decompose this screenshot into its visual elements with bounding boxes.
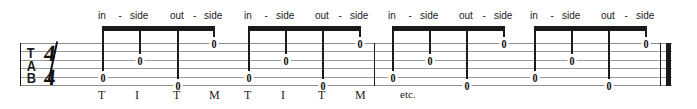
tab-clef-letter-b: B	[27, 70, 36, 85]
tablature-sheet: TAB 44 0000in-sideout-sideTITM0000in-sid…	[0, 0, 697, 109]
staff-line-string-1	[20, 43, 672, 44]
etc-label: etc.	[400, 88, 416, 100]
lyric-syllable-m4-3: side	[562, 10, 580, 21]
lyric-syllable-m3-6: side	[494, 10, 512, 21]
lyric-syllable-m3-1: in	[388, 10, 396, 21]
fingering-m2-n2: I	[281, 89, 285, 101]
lyric-hyphen-m3-5: -	[483, 10, 486, 21]
lyric-syllable-m1-3: side	[130, 10, 148, 21]
fret-number-m2-string1[interactable]: 0	[355, 37, 364, 50]
lyric-hyphen-m1-5: -	[193, 10, 196, 21]
lyric-syllable-m4-1: in	[530, 10, 538, 21]
note-stem-m2-n3	[322, 30, 324, 85]
note-stem-m4-n3	[608, 30, 610, 85]
fingering-m2-n1: T	[244, 89, 251, 101]
lyric-hyphen-m4-5: -	[625, 10, 628, 21]
fret-number-m4-string6[interactable]: 0	[604, 79, 613, 92]
fret-number-m1-string1[interactable]: 0	[209, 37, 218, 50]
fret-number-m3-string3[interactable]: 0	[425, 54, 434, 67]
lyric-syllable-m2-6: side	[350, 10, 368, 21]
fret-number-m3-string1[interactable]: 0	[499, 37, 508, 50]
fret-number-m4-string5[interactable]: 0	[530, 71, 539, 84]
fingering-m2-n4: M	[355, 89, 366, 101]
lyric-syllable-m3-3: side	[420, 10, 438, 21]
lyric-hyphen-m2-2: -	[265, 10, 268, 21]
note-stem-m1-n3	[177, 30, 179, 85]
beam-measure-3	[392, 26, 505, 31]
barline-final-thick	[666, 43, 671, 86]
staff-line-string-4	[20, 68, 672, 69]
beam-measure-4	[534, 26, 647, 31]
barline-mid-barline	[374, 43, 375, 86]
fret-number-m2-string5[interactable]: 0	[244, 71, 253, 84]
barline-staff-start	[20, 43, 21, 86]
fingering-m1-n2: I	[135, 89, 139, 101]
beam-measure-1	[102, 26, 215, 31]
lyric-syllable-m4-6: side	[636, 10, 654, 21]
lyric-syllable-m1-6: side	[204, 10, 222, 21]
lyric-hyphen-m3-2: -	[409, 10, 412, 21]
staff-line-string-6	[20, 85, 672, 86]
note-stem-m3-n3	[466, 30, 468, 85]
barline-final-thin	[660, 43, 661, 86]
lyric-syllable-m2-1: in	[244, 10, 252, 21]
fret-number-m1-string3[interactable]: 0	[135, 54, 144, 67]
fingering-m1-n4: M	[209, 89, 220, 101]
fret-number-m3-string6[interactable]: 0	[462, 79, 471, 92]
fret-number-m1-string5[interactable]: 0	[98, 71, 107, 84]
fingering-m2-n3: T	[318, 89, 325, 101]
fingering-m1-n1: T	[98, 89, 105, 101]
beam-measure-2	[248, 26, 361, 31]
lyric-hyphen-m2-5: -	[339, 10, 342, 21]
fingering-m1-n3: T	[173, 89, 180, 101]
fret-number-m4-string1[interactable]: 0	[641, 37, 650, 50]
lyric-syllable-m3-4: out	[459, 10, 473, 21]
lyric-syllable-m1-1: in	[98, 10, 106, 21]
fret-number-m4-string3[interactable]: 0	[567, 54, 576, 67]
lyric-syllable-m4-4: out	[601, 10, 615, 21]
lyric-syllable-m2-4: out	[315, 10, 329, 21]
fret-number-m3-string5[interactable]: 0	[388, 71, 397, 84]
lyric-hyphen-m1-2: -	[119, 10, 122, 21]
lyric-hyphen-m4-2: -	[551, 10, 554, 21]
lyric-syllable-m2-3: side	[276, 10, 294, 21]
staff-line-string-5	[20, 77, 672, 78]
lyric-syllable-m1-4: out	[170, 10, 184, 21]
fret-number-m2-string3[interactable]: 0	[281, 54, 290, 67]
